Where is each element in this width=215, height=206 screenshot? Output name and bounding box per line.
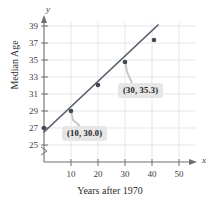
median-age-scatter-chart: 39 37 35 33 31 29 27 25 10 20 30 40 50 y… xyxy=(0,0,215,206)
x-axis xyxy=(44,159,197,165)
y-axis xyxy=(41,15,47,162)
x-tick-label-40: 40 xyxy=(142,170,162,179)
y-axis-letter: y xyxy=(46,5,50,14)
y-tick-label-33: 33 xyxy=(20,73,38,82)
y-tick-label-35: 35 xyxy=(20,56,38,65)
y-axis-title: Median Age xyxy=(10,30,20,100)
x-tick-label-50: 50 xyxy=(169,170,189,179)
annotation-callout-point-30: (30, 35.3) xyxy=(118,83,163,98)
y-tick-label-29: 29 xyxy=(20,107,38,116)
annotation-callout-point-10: (10, 30.0) xyxy=(62,126,107,141)
y-tick-label-31: 31 xyxy=(20,90,38,99)
data-point xyxy=(123,60,128,65)
x-tick-label-20: 20 xyxy=(88,170,108,179)
trend-line xyxy=(44,25,158,132)
x-axis-letter: x xyxy=(202,156,206,165)
data-point xyxy=(69,109,74,114)
y-tick-label-37: 37 xyxy=(20,39,38,48)
y-tick-label-39: 39 xyxy=(20,22,38,31)
x-tick-label-30: 30 xyxy=(115,170,135,179)
y-tick-label-25: 25 xyxy=(20,141,38,150)
data-point xyxy=(152,38,157,43)
data-point xyxy=(96,83,101,88)
x-axis-title: Years after 1970 xyxy=(40,186,180,196)
x-tick-label-10: 10 xyxy=(61,170,81,179)
data-point xyxy=(42,126,47,131)
y-tick-label-27: 27 xyxy=(20,124,38,133)
